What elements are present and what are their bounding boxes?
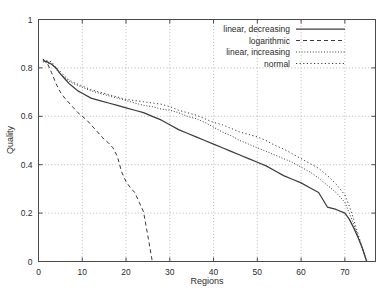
data-series-group — [43, 59, 367, 261]
y-axis-tick-labels: 00.20.40.60.81 — [21, 15, 33, 267]
series-line-linear-increasing — [43, 62, 367, 262]
x-tick-label: 40 — [209, 267, 219, 277]
x-axis-tick-labels: 010203040506070 — [36, 267, 350, 277]
x-tick-label: 50 — [253, 267, 263, 277]
legend-label-linear-increasing: linear, increasing — [226, 47, 290, 57]
series-line-logarithmic — [43, 59, 152, 261]
y-tick-label: 0.8 — [21, 63, 33, 73]
x-axis-ticks — [39, 20, 345, 262]
x-tick-label: 0 — [36, 267, 41, 277]
y-tick-label: 0.6 — [21, 111, 33, 121]
plot-frame — [39, 20, 376, 262]
legend-label-linear-decreasing: linear, decreasing — [223, 24, 290, 34]
series-line-linear-decreasing — [43, 61, 367, 262]
x-tick-label: 70 — [340, 267, 350, 277]
y-tick-label: 0.4 — [21, 160, 33, 170]
x-tick-label: 10 — [78, 267, 88, 277]
gridlines — [39, 20, 376, 262]
chart-container: 010203040506070 00.20.40.60.81 Regions Q… — [0, 0, 383, 299]
y-tick-label: 0.2 — [21, 208, 33, 218]
y-axis-ticks — [39, 20, 376, 262]
x-axis-title: Regions — [190, 276, 224, 286]
x-tick-label: 60 — [296, 267, 306, 277]
y-tick-label: 0 — [28, 257, 33, 267]
x-tick-label: 20 — [121, 267, 131, 277]
legend: linear, decreasinglogarithmiclinear, inc… — [223, 24, 345, 69]
x-tick-label: 30 — [165, 267, 175, 277]
legend-label-logarithmic: logarithmic — [249, 36, 291, 46]
quality-vs-regions-line-chart: 010203040506070 00.20.40.60.81 Regions Q… — [0, 0, 383, 299]
series-line-normal — [43, 59, 367, 261]
legend-label-normal: normal — [264, 59, 290, 69]
y-axis-title: Quality — [5, 125, 15, 154]
y-tick-label: 1 — [28, 15, 33, 25]
